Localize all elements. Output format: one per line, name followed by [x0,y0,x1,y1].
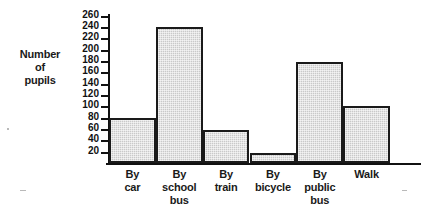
y-tick-label: 180 [82,55,99,65]
x-axis-category-label-line: Walk [337,168,396,181]
y-axis-title: Number of pupils [4,48,76,87]
y-tick-label: 140 [82,78,99,88]
y-tick-label: 40 [88,134,99,144]
y-axis-title-line-1: Number [4,48,76,61]
x-axis-category-label-line: bus [150,194,209,207]
y-tick-label: 200 [82,44,99,54]
bar [156,27,203,163]
bar [250,153,297,163]
scan-speckle [402,190,407,191]
y-tick-label: 260 [82,10,99,20]
bar [109,118,156,163]
y-tick-label: 160 [82,66,99,76]
bar-chart: Number of pupils 20406080100120140160180… [0,0,425,209]
y-tick-label: 80 [88,112,99,122]
y-tick-label: 240 [82,21,99,31]
bar [296,62,343,163]
y-tick-label: 100 [82,100,99,110]
plot-area: 20406080100120140160180200220240260 [108,10,390,164]
x-axis-category-label-line: bus [290,194,349,207]
y-tick-label: 120 [82,89,99,99]
x-axis-category-label-line: public [290,181,349,194]
scan-speckle [20,190,26,191]
bar-series [109,10,390,164]
y-tick-label: 220 [82,32,99,42]
bar [203,130,250,163]
bar [343,106,390,163]
y-tick-label: 20 [88,146,99,156]
y-tick-label: 60 [88,123,99,133]
x-axis-category-labels: BycarByschoolbusBytrainBybicycleBypublic… [109,168,390,209]
scan-speckle [7,128,9,130]
y-axis-title-line-2: of [4,61,76,74]
y-axis-title-line-3: pupils [4,74,76,87]
x-axis-category-label: Walk [337,168,396,181]
